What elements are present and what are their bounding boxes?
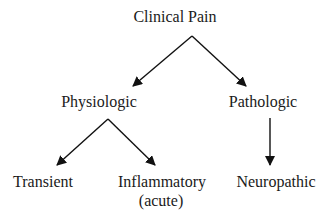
node-transient: Transient <box>13 173 73 191</box>
arrow-root-to-pathologic <box>192 36 246 86</box>
arrow-root-to-physiologic <box>133 36 192 86</box>
node-pathologic: Pathologic <box>229 93 297 111</box>
arrow-physiologic-to-inflammatory <box>108 119 155 165</box>
node-clinical-pain: Clinical Pain <box>133 8 216 26</box>
node-inflammatory-sublabel: (acute) <box>139 192 183 210</box>
node-inflammatory: Inflammatory <box>118 173 206 191</box>
node-neuropathic: Neuropathic <box>236 173 315 191</box>
pain-classification-diagram: Clinical Pain Physiologic Pathologic Tra… <box>0 0 323 215</box>
arrow-physiologic-to-transient <box>57 119 108 165</box>
node-physiologic: Physiologic <box>61 93 137 111</box>
